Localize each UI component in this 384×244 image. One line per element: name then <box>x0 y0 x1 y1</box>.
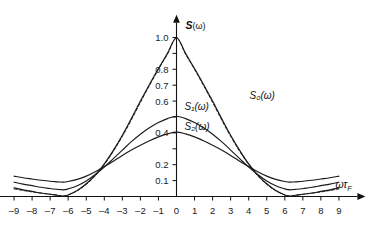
x-axis-tick-labels: –9–8–7–6–5–4–3–2–10123456789 <box>9 205 342 216</box>
x-axis-title-subscript: F <box>347 184 352 193</box>
x-axis-title: ωτF <box>335 178 352 193</box>
y-tick-label: 0.2 <box>155 159 168 170</box>
curve-annotations: S₀(ω)S₁(ω)S₂(ω) <box>185 90 275 132</box>
label-s1: S₁(ω) <box>185 101 209 112</box>
y-tick-label: 0.8 <box>155 64 168 75</box>
y-tick-label: 0.4 <box>155 127 168 138</box>
y-axis-title: S(ω) <box>186 19 206 31</box>
axis-titles: S(ω)ωτF <box>186 19 353 193</box>
chart-figure: –9–8–7–6–5–4–3–2–10123456789 0.10.20.40.… <box>0 0 384 244</box>
y-axis-ticks <box>173 38 177 181</box>
x-tick-label: –4 <box>99 205 110 216</box>
x-tick-label: 4 <box>246 205 251 216</box>
y-tick-label: 1.0 <box>155 32 168 43</box>
x-tick-label: –2 <box>135 205 146 216</box>
axis-lines <box>0 15 365 200</box>
label-s0: S₀(ω) <box>250 90 275 101</box>
x-axis-ticks <box>14 197 339 201</box>
spectral-density-plot: –9–8–7–6–5–4–3–2–10123456789 0.10.20.40.… <box>0 0 384 244</box>
x-tick-label: –5 <box>81 205 92 216</box>
x-tick-label: –9 <box>9 205 20 216</box>
x-tick-label: 2 <box>210 205 215 216</box>
y-axis-title-arg: (ω) <box>193 21 206 31</box>
x-tick-label: 8 <box>318 205 323 216</box>
y-tick-label: 0.7 <box>155 80 168 91</box>
x-tick-label: 7 <box>300 205 305 216</box>
x-tick-label: 3 <box>228 205 233 216</box>
x-tick-label: –6 <box>63 205 74 216</box>
x-tick-label: –1 <box>153 205 164 216</box>
x-tick-label: 6 <box>282 205 287 216</box>
x-tick-label: –3 <box>117 205 128 216</box>
y-axis-title-symbol: S <box>186 19 193 31</box>
x-tick-label: 0 <box>174 205 179 216</box>
x-tick-label: –8 <box>27 205 38 216</box>
y-tick-label: 0.1 <box>155 175 168 186</box>
x-tick-label: 9 <box>336 205 341 216</box>
x-tick-label: 1 <box>192 205 197 216</box>
x-tick-label: 5 <box>264 205 269 216</box>
x-tick-label: –7 <box>45 205 56 216</box>
label-s2: S₂(ω) <box>185 121 210 132</box>
y-tick-label: 0.6 <box>155 96 168 107</box>
